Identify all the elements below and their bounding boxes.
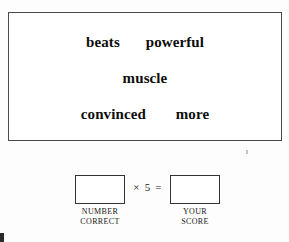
word-row: muscle <box>9 70 289 87</box>
your-score-label-line2: SCORE <box>161 217 229 227</box>
your-score-cell: YOUR SCORE <box>161 175 229 227</box>
word-row: convinced more <box>9 106 289 123</box>
number-correct-input[interactable] <box>75 175 125 204</box>
word-item: muscle <box>123 70 168 87</box>
word-row: beats powerful <box>9 34 289 51</box>
your-score-input[interactable] <box>170 175 220 204</box>
number-correct-cell: NUMBER CORRECT <box>66 175 134 227</box>
word-item: more <box>176 106 209 123</box>
number-correct-label-line2: CORRECT <box>66 217 134 227</box>
word-item: powerful <box>146 34 204 51</box>
word-item: convinced <box>81 106 146 123</box>
number-correct-label: NUMBER CORRECT <box>66 207 134 227</box>
score-section: NUMBER CORRECT × 5 = YOUR SCORE <box>0 175 289 235</box>
word-list-panel: beats powerful muscle convinced more <box>8 12 282 141</box>
your-score-label-line1: YOUR <box>161 207 229 217</box>
scan-speck-artifact <box>246 150 248 154</box>
worksheet-page: beats powerful muscle convinced more NUM… <box>0 0 289 242</box>
number-correct-label-line1: NUMBER <box>66 207 134 217</box>
word-item: beats <box>86 34 120 51</box>
your-score-label: YOUR SCORE <box>161 207 229 227</box>
